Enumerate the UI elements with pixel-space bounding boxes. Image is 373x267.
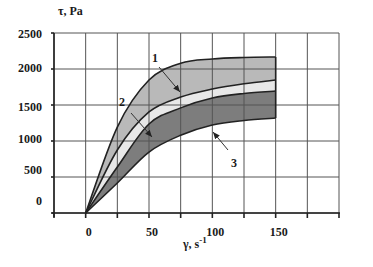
- x-tick-label: 50: [146, 225, 158, 239]
- y-tick-label: 1500: [18, 100, 42, 114]
- x-tick-label: 100: [206, 225, 224, 239]
- y-tick-label: 0: [36, 194, 42, 208]
- annotation-label-2: 2: [119, 95, 125, 109]
- annotation-label-1: 1: [152, 51, 158, 65]
- x-tick-label: 150: [270, 225, 288, 239]
- y-tick-label: 2000: [18, 61, 42, 75]
- x-axis-title-superscript: -1: [199, 235, 207, 245]
- x-axis-title: γ, s-1: [182, 235, 207, 251]
- y-tick-label: 1000: [18, 132, 42, 146]
- x-tick-label: 0: [86, 225, 92, 239]
- y-axis-title: τ, Pa: [58, 4, 83, 18]
- y-tick-label: 2500: [18, 27, 42, 41]
- y-tick-labels: 05001000150020002500: [18, 27, 42, 208]
- chart-canvas: 05001000150020002500 050100150 123 τ, Pa…: [0, 0, 373, 267]
- y-tick-label: 500: [24, 163, 42, 177]
- annotation-label-3: 3: [231, 156, 237, 170]
- x-axis-title-base: γ, s: [182, 237, 200, 251]
